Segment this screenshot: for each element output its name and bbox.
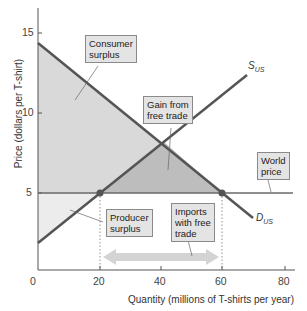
point-demand-at-world-price [219, 190, 226, 197]
x-tick-60: 60 [215, 275, 227, 287]
world-price-label: World price [257, 152, 290, 180]
x-tick-40: 40 [154, 275, 166, 287]
producer-surplus-label: Producer surplus [106, 209, 153, 237]
y-tick-10: 10 [22, 106, 34, 118]
x-axis-label: Quantity (millions of T-shirts per year) [128, 294, 294, 305]
y-tick-15: 15 [22, 26, 34, 38]
point-supply-at-world-price [97, 190, 104, 197]
consumer-surplus-label: Consumer surplus [85, 35, 137, 63]
demand-curve-label: DUS [256, 212, 273, 225]
y-tick-5: 5 [26, 186, 32, 198]
imports-label: Imports with free trade [171, 203, 215, 242]
x-tick-80: 80 [278, 275, 290, 287]
imports-arrow [103, 249, 219, 265]
y-axis-label: Price (dollars per T-shirt) [13, 54, 24, 174]
supply-curve-label: SUS [248, 60, 264, 73]
x-tick-0: 0 [30, 275, 36, 287]
gain-from-trade-label: Gain from free trade [143, 96, 193, 124]
x-tick-20: 20 [93, 275, 105, 287]
